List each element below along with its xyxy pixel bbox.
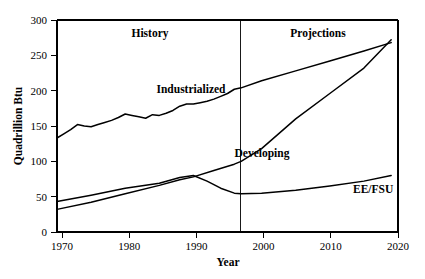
x-tick-label-2010: 2010 [320,240,343,252]
x-axis-ticks [62,232,398,238]
annotation-projections: Projections [290,27,346,40]
annotation-developing: Developing [235,147,290,160]
y-tick-label-0: 0 [42,226,48,238]
y-tick-label-250: 250 [31,49,48,61]
energy-consumption-line-chart: 300 250 200 150 100 50 0 1970 1980 1990 … [0,0,425,279]
y-tick-label-200: 200 [31,85,48,97]
chart-figure: 300 250 200 150 100 50 0 1970 1980 1990 … [0,0,425,279]
y-tick-label-50: 50 [36,191,48,203]
y-axis-ticks [51,20,57,232]
y-tick-label-300: 300 [31,14,48,26]
y-axis-tick-labels: 300 250 200 150 100 50 0 [31,14,48,238]
y-tick-label-150: 150 [31,120,48,132]
x-tick-label-1990: 1990 [185,240,208,252]
x-axis-tick-labels: 1970 1980 1990 2000 2010 2020 [51,240,410,252]
annotation-history: History [131,27,168,40]
y-tick-label-100: 100 [31,155,48,167]
annotation-industrialized: Industrialized [156,83,226,95]
plot-frame [57,20,398,232]
y-axis-title: Quadrillion Btu [12,86,24,165]
x-tick-label-2020: 2020 [387,240,410,252]
x-tick-label-1980: 1980 [118,240,141,252]
x-tick-label-1970: 1970 [51,240,74,252]
x-tick-label-2000: 2000 [253,240,276,252]
annotation-ee-fsu: EE/FSU [353,183,394,195]
x-axis-title: Year [217,256,240,268]
